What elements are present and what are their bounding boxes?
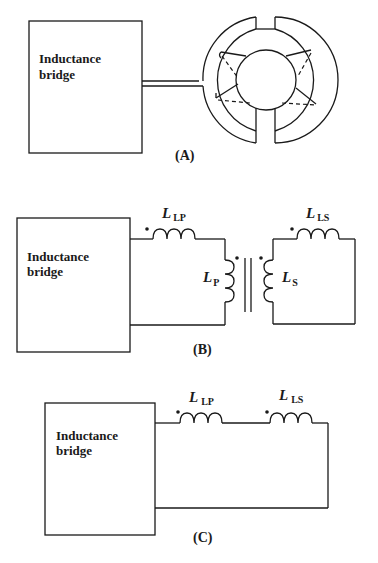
figure-canvas: Inductance bridge [0, 0, 378, 563]
secondary-circuit [259, 227, 355, 324]
transformer-core [245, 258, 251, 312]
polarity-dot-lls-c [265, 410, 269, 414]
inductor-lls-b [297, 229, 339, 239]
inductor-lp [225, 260, 234, 302]
polarity-dot-llp-b [145, 227, 149, 231]
polarity-dot-lls-b [290, 227, 294, 231]
label-lls-b: LLS [305, 205, 330, 223]
inductor-llp-b [153, 229, 195, 239]
panel-label-b: (B) [193, 342, 212, 358]
panel-a: Inductance bridge [29, 17, 338, 164]
inductance-bridge-box-c [45, 403, 155, 535]
label-lp: LP [202, 269, 219, 288]
panel-label-c: (C) [193, 530, 213, 546]
panel-label-a: (A) [175, 148, 195, 164]
inductor-ls [264, 260, 273, 302]
polarity-dot-llp-c [176, 410, 180, 414]
polarity-dot-ls [259, 256, 263, 260]
label-lls-c: LLS [278, 387, 304, 405]
label-llp-c: LLP [188, 389, 214, 407]
inductor-llp-c [180, 413, 222, 423]
inner-core-circle [236, 50, 296, 110]
split-ring-coil [203, 17, 338, 143]
series-circuit [155, 410, 328, 508]
label-ls: LS [281, 269, 298, 288]
bridge-label-c-line2: bridge [56, 443, 92, 458]
primary-circuit [130, 227, 239, 325]
bridge-label-b-line1: Inductance [27, 249, 89, 264]
twin-lead-wire [142, 81, 203, 86]
inductance-bridge-box-a [29, 21, 142, 153]
inductor-lls-c [270, 413, 312, 423]
panel-b: Inductance bridge [17, 205, 355, 358]
bridge-label-b-line2: bridge [27, 264, 63, 279]
bridge-label-a-line2: bridge [39, 67, 75, 82]
bridge-label-a-line1: Inductance [39, 51, 101, 66]
panel-c: Inductance bridge LLP LLS (C) [45, 387, 328, 546]
polarity-dot-lp [235, 256, 239, 260]
label-llp-b: LLP [161, 205, 186, 223]
bridge-label-c-line1: Inductance [56, 428, 118, 443]
inductance-bridge-box-b [17, 218, 130, 352]
